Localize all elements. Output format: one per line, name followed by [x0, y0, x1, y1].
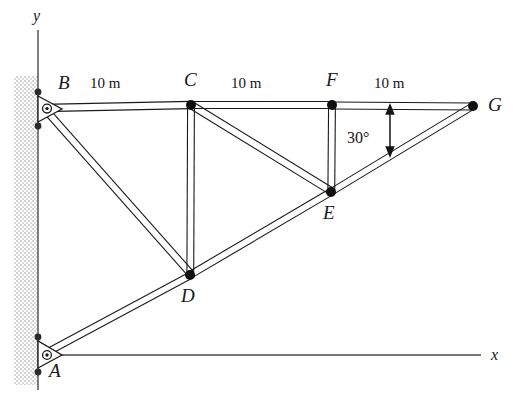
- wall-hatch: [14, 76, 38, 385]
- member-C-E: [189, 102, 334, 195]
- node-label-B: B: [58, 73, 70, 92]
- joint-E: [326, 187, 336, 197]
- joint-C: [186, 100, 196, 110]
- dimension-label-fg: 10 m: [374, 76, 404, 91]
- support-pin-B: [35, 89, 62, 130]
- angle-arrow-30: [386, 105, 393, 156]
- node-label-F: F: [326, 70, 338, 89]
- truss-members: [40, 101, 474, 357]
- member-F-E: [328, 104, 336, 192]
- truss-diagram: y x B C F G E D A 10 m 10 m 10 m 30°: [0, 0, 517, 400]
- node-label-A: A: [49, 361, 61, 380]
- truss-drawing-canvas: [0, 0, 517, 400]
- y-axis-label: y: [33, 8, 40, 24]
- joint-D: [185, 270, 195, 280]
- x-axis-label: x: [491, 347, 498, 363]
- node-label-C: C: [184, 70, 197, 89]
- node-label-G: G: [488, 95, 502, 114]
- node-label-D: D: [181, 286, 195, 305]
- joint-F: [327, 100, 337, 110]
- member-C-D: [187, 104, 195, 275]
- dimension-label-cf: 10 m: [231, 76, 261, 91]
- dimension-label-bc: 10 m: [90, 76, 120, 91]
- member-F-G: [332, 102, 473, 110]
- member-A-D: [43, 271, 195, 357]
- node-label-E: E: [323, 203, 335, 222]
- joint-G: [468, 101, 478, 111]
- member-B-D: [40, 105, 193, 277]
- member-E-G: [330, 103, 475, 195]
- member-D-E: [188, 189, 332, 278]
- angle-label-30: 30°: [347, 130, 369, 146]
- member-B-C: [43, 101, 191, 111]
- truss-joints: [185, 100, 478, 280]
- member-C-F: [191, 102, 332, 109]
